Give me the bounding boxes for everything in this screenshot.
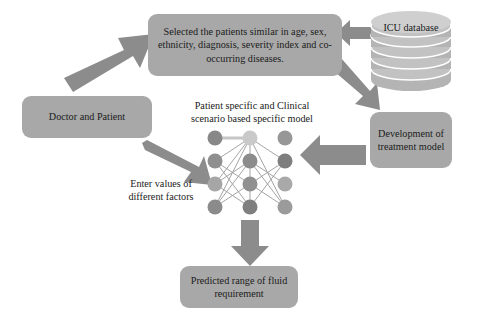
neural-network-graph — [204, 127, 296, 219]
node-predicted-range-of-fluid-requirement: Predicted range of fluid requirement — [180, 266, 298, 308]
arrow-neural-network-to-predicted-range — [230, 220, 270, 266]
node-doctor-and-patient: Doctor and Patient — [22, 96, 152, 138]
node-development-of-treatment-model: Development of treatment model — [370, 112, 452, 168]
diagram-canvas: Selected the patients similar in age, se… — [0, 0, 477, 321]
label-patient-specific-clinical-model: Patient specific and Clinical scenario b… — [182, 99, 322, 126]
icu-database-cylinder-icon: ICU database — [365, 8, 457, 96]
node-selected-patients: Selected the patients similar in age, se… — [148, 14, 342, 76]
arrow-development-model-to-neural-network — [300, 134, 366, 176]
icu-database-label: ICU database — [365, 22, 457, 33]
arrow-doctor-to-selected-patients — [62, 28, 162, 94]
label-enter-values-of-different-factors: Enter values of different factors — [115, 177, 207, 204]
